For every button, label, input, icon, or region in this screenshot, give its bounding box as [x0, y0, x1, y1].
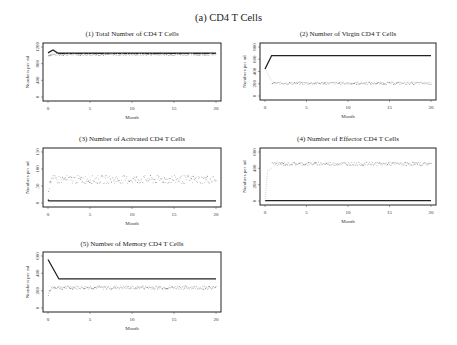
y-tick-label: 200: [35, 286, 40, 294]
chart-p1: 0510152004008001200MonthNumbers per ml: [25, 42, 221, 121]
x-tick-label: 5: [89, 212, 92, 217]
y-tick-label: 1200: [35, 42, 40, 53]
y-axis-label: Numbers per ml: [242, 160, 247, 193]
y-tick-label: 800: [252, 43, 257, 51]
y-tick-label: 200: [252, 80, 257, 88]
y-axis-label: Numbers per ml: [242, 55, 247, 88]
y-tick-label: 400: [252, 164, 257, 172]
x-tick-label: 5: [89, 317, 92, 322]
y-tick-label: 150: [35, 148, 40, 156]
x-axis-label: Month: [341, 219, 355, 224]
x-tick-label: 0: [264, 210, 267, 215]
x-axis-label: Month: [125, 326, 139, 331]
x-tick-label: 10: [130, 317, 136, 322]
x-tick-label: 5: [89, 106, 92, 111]
x-tick-label: 20: [214, 106, 220, 111]
x-tick-label: 0: [47, 212, 50, 217]
x-tick-label: 15: [172, 106, 178, 111]
y-axis-label: Numbers per ml: [25, 265, 30, 298]
plot-frame: [43, 43, 221, 101]
y-tick-label: 0: [35, 201, 40, 204]
x-tick-label: 15: [172, 212, 178, 217]
y-tick-label: 800: [35, 59, 40, 67]
x-tick-label: 15: [172, 317, 178, 322]
x-tick-label: 10: [346, 105, 352, 110]
simulated-points: [48, 175, 217, 192]
model-line: [48, 259, 216, 279]
simulated-points: [265, 69, 432, 85]
x-tick-label: 15: [387, 105, 393, 110]
y-tick-label: 0: [252, 199, 257, 202]
x-tick-label: 0: [47, 317, 50, 322]
y-tick-label: 50: [35, 183, 40, 189]
x-tick-label: 20: [429, 210, 435, 215]
x-axis-label: Month: [125, 221, 139, 226]
plots-canvas: 0510152004008001200MonthNumbers per ml05…: [0, 0, 457, 345]
simulated-points: [265, 162, 432, 201]
x-tick-label: 20: [214, 212, 220, 217]
x-tick-label: 10: [346, 210, 352, 215]
plot-frame: [260, 43, 436, 100]
y-tick-label: 600: [35, 252, 40, 260]
y-axis-label: Numbers per ml: [25, 55, 30, 88]
x-axis-label: Month: [125, 115, 139, 120]
chart-p3: 05101520050100150MonthNumbers per ml: [25, 148, 221, 226]
x-tick-label: 20: [429, 105, 435, 110]
model-line: [265, 56, 431, 69]
simulated-points: [48, 286, 217, 296]
x-tick-label: 5: [305, 210, 308, 215]
x-tick-label: 20: [214, 317, 220, 322]
y-tick-label: 400: [35, 269, 40, 277]
y-tick-label: 100: [35, 165, 40, 173]
x-tick-label: 10: [130, 212, 136, 217]
plot-frame: [43, 252, 221, 312]
x-tick-label: 15: [387, 210, 393, 215]
x-tick-label: 0: [264, 105, 267, 110]
plot-frame: [260, 148, 436, 205]
y-tick-label: 600: [252, 148, 257, 156]
x-tick-label: 10: [130, 106, 136, 111]
y-tick-label: 400: [35, 76, 40, 84]
y-tick-label: 200: [252, 180, 257, 188]
x-axis-label: Month: [341, 114, 355, 119]
model-line: [48, 200, 216, 201]
y-axis-label: Numbers per ml: [25, 161, 30, 194]
y-tick-label: 0: [35, 95, 40, 98]
model-line: [48, 50, 216, 53]
y-tick-label: 400: [252, 67, 257, 75]
y-tick-label: 0: [252, 94, 257, 97]
chart-p4: 051015200200400600MonthNumbers per ml: [242, 148, 436, 224]
y-tick-label: 600: [252, 55, 257, 63]
chart-p5: 051015200200400600MonthNumbers per ml: [25, 252, 221, 331]
x-tick-label: 0: [47, 106, 50, 111]
y-tick-label: 0: [35, 306, 40, 309]
x-tick-label: 5: [305, 105, 308, 110]
chart-p2: 051015200200400600800MonthNumbers per ml: [242, 43, 436, 119]
